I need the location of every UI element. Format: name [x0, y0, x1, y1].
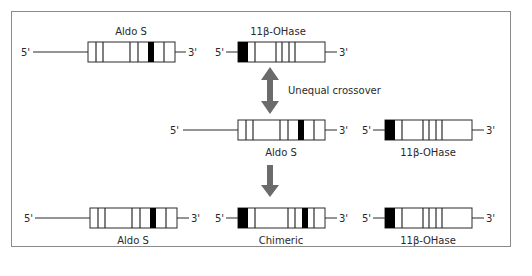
three-prime-label: 3' — [339, 213, 348, 224]
gene-chimeric-row3: 5' 3' Chimeric — [215, 208, 348, 246]
row-1: 5' 3' Aldo S 5' 3' 11β-OHase — [21, 26, 348, 62]
gene-diagram: 5' 3' Aldo S 5' 3' 11β-OHase Unequal cro… — [0, 0, 532, 276]
row-3: 5' 3' Aldo S 5' 3' Chimeric 5' 3' 11β-OH… — [24, 208, 495, 246]
gene-11b-ohase-row1: 5' 3' 11β-OHase — [215, 26, 348, 62]
three-prime-label: 3' — [191, 213, 200, 224]
gene-label: Aldo S — [115, 26, 147, 37]
five-prime-label: 5' — [215, 213, 224, 224]
five-prime-label: 5' — [362, 213, 371, 224]
gene-label: 11β-OHase — [250, 26, 306, 37]
gene-aldo-s-row3: 5' 3' Aldo S — [24, 208, 200, 246]
double-arrow-icon — [261, 67, 279, 114]
three-prime-label: 3' — [486, 213, 495, 224]
three-prime-label: 3' — [486, 125, 495, 136]
gene-11b-ohase-row3: 5' 3' 11β-OHase — [362, 208, 495, 246]
gene-label: Aldo S — [265, 147, 297, 158]
gene-label: 11β-OHase — [400, 147, 456, 158]
five-prime-label: 5' — [24, 213, 33, 224]
five-prime-label: 5' — [215, 47, 224, 58]
down-arrow-icon — [261, 165, 279, 197]
three-prime-label: 3' — [339, 47, 348, 58]
three-prime-label: 3' — [188, 47, 197, 58]
gene-label: 11β-OHase — [400, 235, 456, 246]
gene-label: Chimeric — [259, 235, 303, 246]
five-prime-label: 5' — [362, 125, 371, 136]
gene-11b-ohase-row2: 5' 3' 11β-OHase — [362, 120, 495, 158]
three-prime-label: 3' — [339, 125, 348, 136]
row-2: 5' 3' Aldo S 5' 3' 11β-OHase — [170, 120, 495, 158]
gene-aldo-s-row1: 5' 3' Aldo S — [21, 26, 197, 62]
step-label: Unequal crossover — [288, 85, 382, 96]
gene-label: Aldo S — [117, 235, 149, 246]
gene-aldo-s-row2: 5' 3' Aldo S — [170, 120, 348, 158]
five-prime-label: 5' — [21, 47, 30, 58]
five-prime-label: 5' — [170, 125, 179, 136]
